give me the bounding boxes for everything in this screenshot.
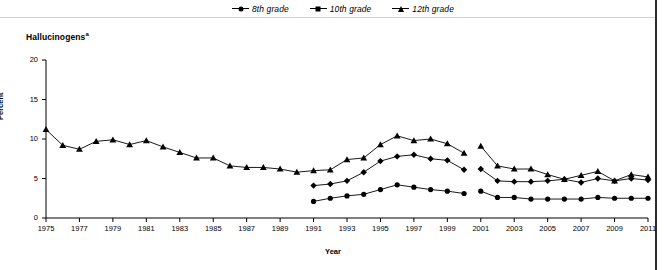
chart-page: 8th grade 10th grade 12th grade Hallucin… [0,0,666,270]
x-tick-label: 2011 [628,224,666,233]
y-tick-label: 5 [16,174,38,183]
y-tick-label: 0 [16,213,38,222]
y-tick-label: 15 [16,95,38,104]
plot-area: Percent Year 051015201975197719791981198… [0,0,666,270]
y-tick-label: 10 [16,134,38,143]
y-tick-label: 20 [16,55,38,64]
